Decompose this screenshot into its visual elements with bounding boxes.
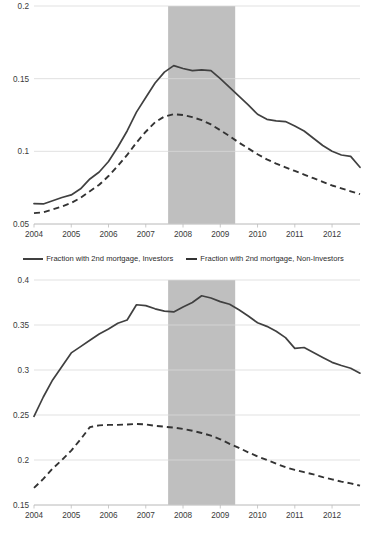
x-axis-tick-label: 2007 — [137, 511, 156, 520]
y-axis-tick-label: 0.3 — [18, 366, 30, 375]
x-axis-tick-label: 2010 — [248, 230, 267, 239]
y-axis-tick-label: 0.1 — [18, 147, 30, 156]
y-axis-tick-label: 0.2 — [18, 456, 30, 465]
legend-label-investors: Fraction with 2nd mortgage, Investors — [46, 254, 173, 263]
y-axis-tick-label: 0.15 — [13, 501, 29, 510]
x-axis-tick-label: 2006 — [99, 511, 118, 520]
x-axis-tick-label: 2012 — [323, 511, 342, 520]
x-axis-tick-label: 2012 — [323, 230, 342, 239]
x-axis-tick-label: 2011 — [286, 511, 304, 520]
legend-item-investors[interactable]: Fraction with 2nd mortgage, Investors — [23, 254, 173, 263]
chart-panel-second-mortgage: 0.050.10.150.220042005200620072008200920… — [0, 0, 367, 275]
legend-line-solid-icon — [23, 258, 43, 260]
y-axis-tick-label: 0.05 — [13, 220, 29, 229]
legend-line-dashed-icon — [186, 258, 197, 260]
y-axis-tick-label: 0.35 — [13, 321, 29, 330]
legend-label-non-investors: Fraction with 2nd mortgage, Non-Investor… — [200, 254, 344, 263]
x-axis-tick-label: 2011 — [286, 230, 304, 239]
x-axis-tick-label: 2008 — [174, 230, 193, 239]
recession-shading — [168, 280, 235, 505]
x-axis-tick-label: 2004 — [25, 511, 44, 520]
x-axis-tick-label: 2007 — [137, 230, 156, 239]
legend-item-non-investors[interactable]: Fraction with 2nd mortgage, Non-Investor… — [186, 254, 344, 263]
legend-second-mortgage: Fraction with 2nd mortgage, Investors Fr… — [0, 254, 367, 263]
x-axis-tick-label: 2004 — [25, 230, 44, 239]
heloc-chart: 0.150.20.250.30.350.42004200520062007200… — [0, 275, 367, 525]
second-mortgage-chart: 0.050.10.150.220042005200620072008200920… — [0, 0, 367, 250]
x-axis-tick-label: 2006 — [99, 230, 118, 239]
y-axis-tick-label: 0.2 — [18, 2, 30, 11]
y-axis-tick-label: 0.4 — [18, 276, 30, 285]
x-axis-tick-label: 2010 — [248, 511, 267, 520]
x-axis-tick-label: 2009 — [211, 230, 230, 239]
chart-panel-heloc: 0.150.20.250.30.350.42004200520062007200… — [0, 275, 367, 550]
x-axis-tick-label: 2005 — [62, 511, 81, 520]
x-axis-tick-label: 2005 — [62, 230, 81, 239]
x-axis-tick-label: 2009 — [211, 511, 230, 520]
y-axis-tick-label: 0.15 — [13, 75, 29, 84]
y-axis-tick-label: 0.25 — [13, 411, 29, 420]
figure-container: 0.050.10.150.220042005200620072008200920… — [0, 0, 367, 550]
x-axis-tick-label: 2008 — [174, 511, 193, 520]
